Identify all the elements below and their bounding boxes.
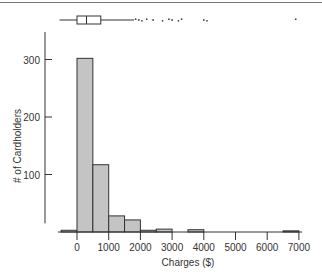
boxplot-outlier [178, 20, 180, 22]
x-tick-label: 5000 [224, 242, 247, 253]
x-tick-label: 4000 [193, 242, 216, 253]
boxplot-outlier [181, 18, 183, 20]
x-tick-label: 3000 [161, 242, 184, 253]
histogram-bar [125, 220, 141, 232]
x-axis-label: Charges ($) [162, 257, 215, 268]
boxplot-outlier [152, 19, 154, 21]
boxplot-outlier [206, 20, 208, 22]
x-tick-label: 1000 [98, 242, 121, 253]
boxplot-outlier [171, 19, 173, 21]
histogram-bar [109, 216, 125, 232]
boxplot-outlier [135, 18, 137, 20]
boxplot-outlier [146, 18, 148, 20]
histogram-bar [93, 165, 109, 232]
boxplot-outlier [141, 20, 143, 22]
boxplot-outlier [203, 19, 205, 21]
x-tick-label: 7000 [288, 242, 311, 253]
x-tick-label: 0 [74, 242, 80, 253]
boxplot-outlier [138, 19, 140, 21]
boxplot-box [77, 16, 101, 24]
y-axis-label: # of Cardholders [12, 109, 23, 183]
x-tick-label: 2000 [129, 242, 152, 253]
y-tick-label: 300 [23, 55, 40, 66]
y-tick-label: 200 [23, 112, 40, 123]
axes: 10020030001000200030004000500060007000 [23, 32, 310, 253]
x-tick-label: 6000 [256, 242, 279, 253]
boxplot-outlier [162, 20, 164, 22]
boxplot-outlier [168, 18, 170, 20]
y-tick-label: 100 [23, 170, 40, 181]
histogram-bars [61, 58, 299, 232]
histogram-chart: 10020030001000200030004000500060007000 #… [0, 0, 322, 280]
boxplot-outlier [295, 18, 297, 20]
histogram-bar [77, 58, 93, 232]
boxplot [60, 16, 297, 24]
